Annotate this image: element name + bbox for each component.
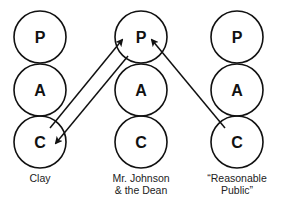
public-parent-letter: P (232, 29, 243, 46)
label-reasonable-public-line1: “Reasonable (207, 172, 267, 184)
johnson-child-letter: C (135, 134, 147, 151)
column-reasonable-public: P A C (211, 11, 263, 168)
label-clay: Clay (29, 172, 50, 184)
label-reasonable-public: “Reasonable Public” (207, 172, 267, 196)
column-johnson-dean: P A C (115, 11, 167, 168)
public-adult-letter: A (231, 82, 243, 99)
label-johnson-dean-line1: Mr. Johnson (112, 172, 169, 184)
clay-adult-letter: A (34, 82, 46, 99)
label-clay-line1: Clay (29, 172, 50, 184)
arrow-public-child-to-johnson-parent (152, 40, 225, 128)
label-johnson-dean: Mr. Johnson & the Dean (112, 172, 169, 196)
johnson-parent-letter: P (136, 29, 147, 46)
label-johnson-dean-line2: & the Dean (112, 184, 169, 196)
clay-parent-letter: P (35, 29, 46, 46)
label-reasonable-public-line2: Public” (207, 184, 267, 196)
johnson-adult-letter: A (135, 82, 147, 99)
public-child-letter: C (231, 134, 243, 151)
column-clay: P A C (14, 11, 66, 168)
clay-child-letter: C (34, 134, 46, 151)
